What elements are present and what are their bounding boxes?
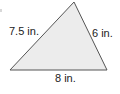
edge-mark [0,9,2,12]
side-label-right: 6 in. [92,28,113,39]
side-label-bottom: 8 in. [55,73,76,84]
side-label-left: 7.5 in. [9,26,39,37]
